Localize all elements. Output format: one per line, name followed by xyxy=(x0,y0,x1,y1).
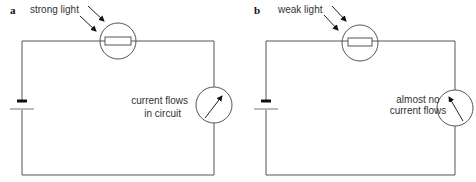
panel-a-meter-label-2: in circuit xyxy=(144,108,181,119)
ammeter-icon xyxy=(196,87,232,123)
battery-icon xyxy=(254,101,278,109)
light-arrows-icon xyxy=(80,6,104,31)
panel-a-letter: a xyxy=(10,4,16,16)
panel-a: a strong light current flows in circuit xyxy=(10,4,232,175)
panel-b: b weak light almost no current flows xyxy=(254,4,473,175)
ldr-symbol-icon xyxy=(100,23,136,59)
circuit-wire xyxy=(22,41,214,175)
light-arrows-icon xyxy=(324,6,346,30)
panel-a-light-label: strong light xyxy=(30,4,79,15)
panel-b-meter-label-2: current flows xyxy=(390,105,447,116)
panel-a-meter-label-1: current flows xyxy=(131,95,188,106)
battery-icon xyxy=(10,101,34,109)
ldr-circuit-diagram: a strong light current flows in circuit xyxy=(0,0,476,182)
ldr-symbol-icon xyxy=(342,25,378,61)
panel-b-light-label: weak light xyxy=(277,4,323,15)
panel-b-letter: b xyxy=(254,4,260,16)
panel-b-meter-label-1: almost no xyxy=(396,94,440,105)
